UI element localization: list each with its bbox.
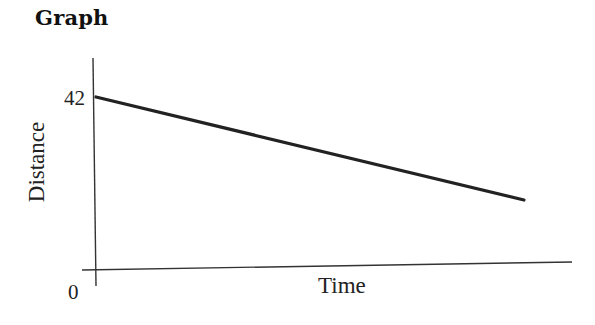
line-chart — [0, 0, 595, 325]
distance-line — [96, 97, 524, 200]
y-axis — [93, 58, 96, 286]
y-axis-label: Distance — [25, 122, 48, 202]
x-axis — [82, 262, 572, 270]
x-axis-label: Time — [318, 274, 366, 297]
y-tick-42: 42 — [64, 88, 85, 109]
origin-tick-0: 0 — [68, 282, 79, 303]
